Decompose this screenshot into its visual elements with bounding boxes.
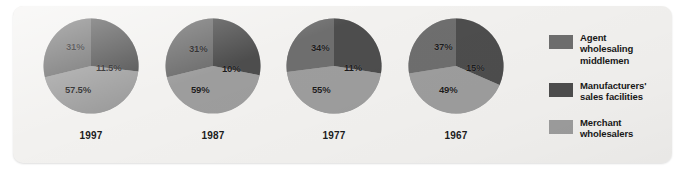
pie-chart-1977: 34% 11% 55% 1977 — [282, 18, 386, 154]
pie-svg-1967 — [408, 18, 504, 114]
slice-label-agent-1977: 34% — [311, 42, 329, 53]
legend-label-manufacturers: Manufacturers' sales facilities — [580, 80, 672, 103]
legend-swatch-agent-icon — [549, 35, 573, 49]
legend-label-merchant-line2: wholesalers — [580, 128, 672, 139]
pie-svg-1977 — [286, 18, 382, 114]
chart-panel: 31% 11.5% 57.5% 1997 31% 10% — [13, 6, 672, 163]
year-label-1967: 1967 — [404, 130, 508, 141]
slice-label-merchant-1997: 57.5% — [65, 84, 91, 95]
pie-wrap-1987: 31% 10% 59% — [165, 18, 261, 114]
legend-label-agent: Agent wholesaling middlemen — [580, 32, 672, 66]
pie-wrap-1977: 34% 11% 55% — [286, 18, 382, 114]
pie-svg-1987 — [165, 18, 261, 114]
pie-chart-1997: 31% 11.5% 57.5% 1997 — [39, 18, 143, 154]
slice-label-merchant-1977: 55% — [312, 84, 330, 95]
slice-label-manufacturers-1987: 10% — [222, 63, 240, 74]
figure-root: 31% 11.5% 57.5% 1997 31% 10% — [0, 0, 689, 171]
pie-svg-1997 — [43, 18, 139, 114]
pie-charts-group: 31% 11.5% 57.5% 1997 31% 10% — [39, 18, 509, 154]
slice-label-agent-1967: 37% — [434, 41, 452, 52]
slice-label-merchant-1987: 59% — [191, 84, 209, 95]
pie-chart-1967: 37% 15% 49% 1967 — [404, 18, 508, 154]
year-label-1997: 1997 — [39, 130, 143, 141]
legend-label-manufacturers-line1: Manufacturers' — [580, 80, 672, 91]
slice-label-manufacturers-1997: 11.5% — [96, 62, 121, 73]
legend-swatch-merchant-icon — [549, 120, 573, 134]
year-label-1987: 1987 — [161, 130, 265, 141]
legend-label-merchant: Merchant wholesalers — [580, 117, 672, 140]
legend-label-agent-line3: middlemen — [580, 55, 672, 66]
legend-label-agent-line2: wholesaling — [580, 43, 672, 54]
legend-label-merchant-line1: Merchant — [580, 117, 672, 128]
slice-label-agent-1997: 31% — [66, 41, 84, 52]
legend-label-agent-line1: Agent — [580, 32, 672, 43]
pie-wrap-1997: 31% 11.5% 57.5% — [43, 18, 139, 114]
slice-merchant-1977 — [287, 66, 381, 114]
slice-label-agent-1987: 31% — [189, 43, 207, 54]
slice-label-manufacturers-1967: 15% — [466, 62, 484, 73]
legend-swatch-manufacturers-icon — [549, 83, 573, 97]
slice-label-manufacturers-1977: 11% — [344, 62, 362, 73]
pie-chart-1987: 31% 10% 59% 1987 — [161, 18, 265, 154]
year-label-1977: 1977 — [282, 130, 386, 141]
pie-wrap-1967: 37% 15% 49% — [408, 18, 504, 114]
slice-label-merchant-1967: 49% — [439, 84, 457, 95]
legend-label-manufacturers-line2: sales facilities — [580, 91, 672, 102]
